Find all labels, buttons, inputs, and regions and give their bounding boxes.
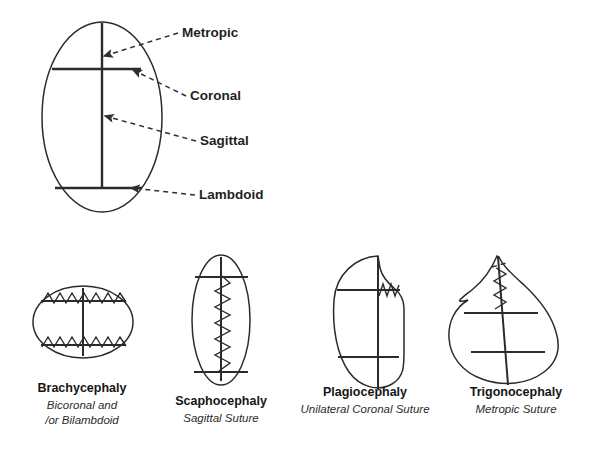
caption-title-plagiocephaly: Plagiocephaly [323, 385, 407, 399]
normal-skull-diagram: Metropic Coronal Sagittal Lambdoid [42, 22, 264, 212]
brachycephaly-diagram: Brachycephaly Bicoronal and /or Bilambdo… [33, 286, 133, 426]
plagiocephaly-diagram: Plagiocephaly Unilateral Coronal Suture [300, 256, 429, 415]
label-metopic: Metropic [182, 25, 239, 40]
craniosynostosis-figure: Metropic Coronal Sagittal Lambdoid Brach… [0, 0, 602, 449]
label-coronal: Coronal [190, 88, 241, 103]
caption-sub-brachycephaly-line2: /or Bilambdoid [44, 414, 119, 426]
caption-sub-brachycephaly-line1: Bicoronal and [47, 399, 118, 411]
label-lambdoid: Lambdoid [199, 187, 264, 202]
lambdoid-leader-line [131, 188, 195, 195]
caption-title-brachycephaly: Brachycephaly [38, 381, 127, 395]
caption-sub-scaphocephaly: Sagittal Suture [183, 412, 258, 424]
caption-sub-plagiocephaly: Unilateral Coronal Suture [300, 403, 429, 415]
caption-title-scaphocephaly: Scaphocephaly [175, 394, 267, 408]
skull-outline-plagiocephaly [334, 256, 404, 388]
scaphocephaly-diagram: Scaphocephaly Sagittal Suture [175, 255, 267, 424]
caption-sub-trigonocephaly: Metropic Suture [475, 403, 556, 415]
label-sagittal: Sagittal [200, 133, 249, 148]
trigonocephaly-diagram: Trigonocephaly Metropic Suture [449, 256, 562, 415]
figure-canvas: Metropic Coronal Sagittal Lambdoid Brach… [0, 0, 602, 449]
caption-title-trigonocephaly: Trigonocephaly [470, 385, 562, 399]
